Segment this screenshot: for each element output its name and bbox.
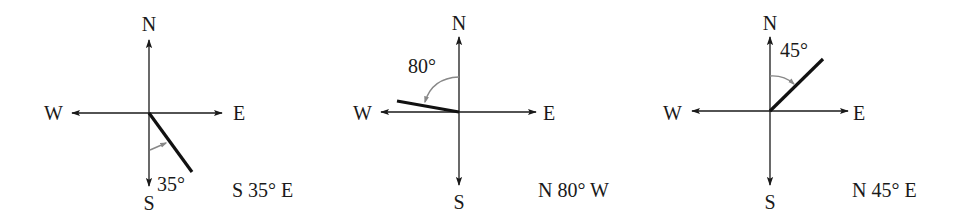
angle-label: 35° (157, 173, 185, 195)
bearing-line (397, 101, 459, 112)
cardinal-s: S (143, 192, 154, 214)
cardinal-w: W (663, 102, 682, 124)
compass-diagram-1: N S E W 35° S 35° E (44, 13, 293, 214)
bearing-label: S 35° E (232, 179, 293, 201)
cardinal-e: E (853, 102, 865, 124)
cardinal-s: S (453, 191, 464, 213)
compass-diagram-2: N S E W 80° N 80° W (353, 12, 609, 213)
cardinal-n: N (142, 13, 156, 35)
cardinal-e: E (543, 102, 555, 124)
cardinal-n: N (452, 12, 466, 34)
bearing-label: N 80° W (538, 179, 609, 201)
cardinal-e: E (233, 102, 245, 124)
bearing-label: N 45° E (852, 179, 917, 201)
cardinal-n: N (763, 12, 777, 34)
bearing-diagrams: N S E W 35° S 35° E N S E W 80° N 80° W … (0, 0, 967, 221)
angle-arc (150, 143, 166, 150)
angle-arc (425, 77, 459, 102)
angle-label: 45° (780, 39, 808, 61)
compass-diagram-3: N S E W 45° N 45° E (663, 12, 917, 213)
angle-arc (770, 76, 794, 84)
cardinal-w: W (353, 102, 372, 124)
bearing-line (770, 59, 823, 111)
angle-label: 80° (408, 55, 436, 77)
bearing-line (149, 113, 192, 172)
cardinal-w: W (44, 102, 63, 124)
cardinal-s: S (764, 191, 775, 213)
